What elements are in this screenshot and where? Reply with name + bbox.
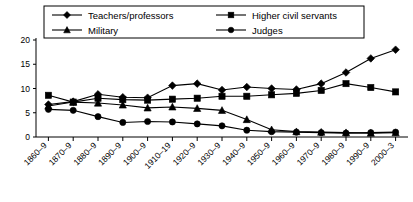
data-point-square: [194, 95, 200, 101]
x-tick-label: 1920–9: [170, 140, 197, 167]
x-tick-label: 1930–9: [195, 140, 222, 167]
data-point-square: [269, 92, 275, 98]
data-point-circle: [70, 107, 76, 113]
x-tick-label: 1910–19: [142, 140, 173, 171]
x-tick-label: 1960–9: [270, 140, 297, 167]
data-point-square: [293, 90, 299, 96]
x-tick-label: 1860–9: [22, 140, 49, 167]
legend-label: Judges: [252, 25, 283, 36]
data-point-diamond: [392, 46, 400, 54]
data-point-circle: [95, 114, 101, 120]
data-point-circle: [145, 118, 151, 124]
x-tick-label: 1940–9: [220, 140, 247, 167]
legend-label: Teachers/professors: [88, 10, 174, 21]
data-point-circle: [194, 121, 200, 127]
line-chart: 051015201860–91870–91880–91890–91900–919…: [0, 0, 413, 202]
x-tick-label: 1990–9: [344, 140, 371, 167]
data-point-circle: [343, 130, 349, 136]
x-tick-label: 1970–9: [294, 140, 321, 167]
y-tick-label: 20: [21, 35, 31, 45]
data-point-square: [169, 96, 175, 102]
data-point-square: [343, 81, 349, 87]
chart-legend: Teachers/professorsHigher civil servants…: [44, 6, 364, 38]
data-point-square: [228, 12, 234, 18]
x-tick-label: 1880–9: [71, 140, 98, 167]
data-point-circle: [169, 119, 175, 125]
data-point-square: [318, 87, 324, 93]
data-point-triangle: [243, 116, 250, 123]
data-point-square: [244, 93, 250, 99]
data-point-circle: [45, 106, 51, 112]
data-point-diamond: [218, 86, 226, 94]
data-point-circle: [244, 127, 250, 133]
data-point-circle: [219, 123, 225, 129]
data-point-circle: [293, 129, 299, 135]
data-point-square: [145, 97, 151, 103]
x-tick-label: 2000–3: [369, 140, 396, 167]
data-point-square: [368, 84, 374, 90]
data-point-diamond: [193, 80, 201, 88]
x-tick-label: 1870–9: [46, 140, 73, 167]
legend-label: Military: [88, 25, 118, 36]
x-tick-label: 1950–9: [245, 140, 272, 167]
y-tick-label: 5: [25, 108, 30, 118]
x-tick-label: 1890–9: [96, 140, 123, 167]
chart-canvas: 051015201860–91870–91880–91890–91900–919…: [0, 0, 413, 202]
data-point-square: [45, 92, 51, 98]
data-point-diamond: [317, 80, 325, 88]
data-point-circle: [120, 119, 126, 125]
data-point-diamond: [268, 85, 276, 93]
y-tick-label: 10: [21, 84, 31, 94]
data-point-diamond: [243, 83, 251, 91]
data-point-circle: [368, 130, 374, 136]
legend-label: Higher civil servants: [252, 10, 337, 21]
data-point-square: [393, 89, 399, 95]
data-point-square: [219, 93, 225, 99]
x-tick-label: 1980–9: [319, 140, 346, 167]
data-point-diamond: [367, 55, 375, 63]
data-point-circle: [269, 129, 275, 135]
data-point-circle: [228, 27, 234, 33]
y-tick-label: 0: [25, 132, 30, 142]
data-point-circle: [393, 129, 399, 135]
data-point-circle: [318, 130, 324, 136]
y-tick-label: 15: [21, 59, 31, 69]
data-point-diamond: [169, 82, 177, 90]
data-point-diamond: [342, 69, 350, 77]
